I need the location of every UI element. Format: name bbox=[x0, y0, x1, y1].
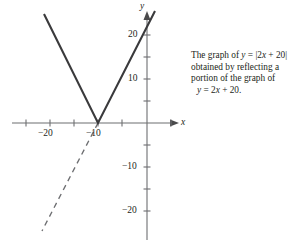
caption-line-1-prefix: The graph of bbox=[191, 50, 241, 60]
caption-line-3: portion of the graph of bbox=[191, 73, 288, 85]
dashed-reflected-line bbox=[42, 123, 98, 231]
caption-line-1-rest: + 20| bbox=[266, 50, 287, 60]
y-tick-label-neg10: −10 bbox=[122, 162, 137, 172]
y-tick-label-pos20: 20 bbox=[128, 30, 138, 40]
caption-line-4-rest: + 20. bbox=[220, 85, 242, 95]
y-axis-arrow-icon bbox=[144, 11, 151, 20]
x-tick-label-neg10: −10 bbox=[86, 129, 101, 139]
absolute-value-graph-figure: −20 −10 20 10 −10 −20 x y The graph of y… bbox=[0, 0, 288, 244]
x-tick-label-neg20: −20 bbox=[38, 129, 53, 139]
caption-line-4: y = 2x + 20. bbox=[191, 85, 288, 97]
caption-line-1: The graph of y = |2x + 20| bbox=[191, 50, 288, 62]
y-axis-label: y bbox=[140, 2, 144, 12]
caption-line-2: obtained by reflecting a bbox=[191, 62, 288, 74]
caption-line-4-eq: = 2 bbox=[201, 85, 216, 95]
graph-canvas bbox=[0, 0, 288, 244]
caption-line-1-eq: = |2 bbox=[245, 50, 261, 60]
y-tick-label-pos10: 10 bbox=[128, 74, 138, 84]
figure-caption: The graph of y = |2x + 20| obtained by r… bbox=[191, 50, 288, 96]
y-tick-label-neg20: −20 bbox=[122, 206, 137, 216]
absolute-value-v-curve bbox=[44, 11, 155, 123]
x-axis-label: x bbox=[181, 118, 185, 128]
